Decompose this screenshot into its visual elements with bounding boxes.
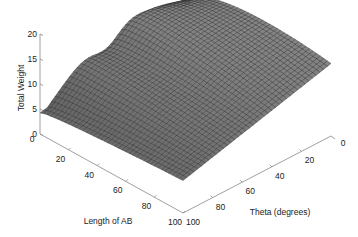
y-tick-label: 100 xyxy=(186,217,200,227)
surface-plot: 05101520020406080100020406080100 Total W… xyxy=(0,0,358,237)
z-axis-label: Total Weight xyxy=(16,64,26,111)
x-tick xyxy=(154,195,156,197)
x-tick-label: 60 xyxy=(113,185,123,195)
y-tick-label: 0 xyxy=(341,138,346,148)
x-tick-label: 40 xyxy=(84,170,94,180)
x-tick xyxy=(69,148,71,150)
y-tick-label: 20 xyxy=(305,155,315,165)
z-tick xyxy=(40,34,43,36)
x-axis-label: Length of AB xyxy=(84,216,133,226)
x-tick xyxy=(97,164,99,166)
surface-mesh xyxy=(40,0,331,180)
x-tick-label: 100 xyxy=(168,217,182,227)
y-axis-end-tick xyxy=(331,136,335,139)
y-axis-label: Theta (degrees) xyxy=(250,207,311,217)
z-tick-label: 5 xyxy=(32,104,37,114)
x-tick xyxy=(126,179,128,181)
z-tick-label: 15 xyxy=(28,54,38,64)
z-tick xyxy=(40,84,43,86)
z-tick-label: 20 xyxy=(28,29,38,39)
y-tick xyxy=(211,196,213,198)
x-tick-label: 0 xyxy=(30,134,35,144)
y-tick-label: 40 xyxy=(275,171,285,181)
z-tick-label: 10 xyxy=(28,79,38,89)
x-tick-label: 80 xyxy=(142,201,152,211)
z-tick xyxy=(40,109,43,111)
y-tick xyxy=(240,180,242,182)
y-tick-label: 60 xyxy=(245,186,255,196)
y-tick-label: 80 xyxy=(216,202,226,212)
z-tick xyxy=(40,59,43,61)
x-tick-label: 20 xyxy=(56,154,66,164)
y-tick xyxy=(270,165,272,167)
y-tick xyxy=(299,149,301,151)
